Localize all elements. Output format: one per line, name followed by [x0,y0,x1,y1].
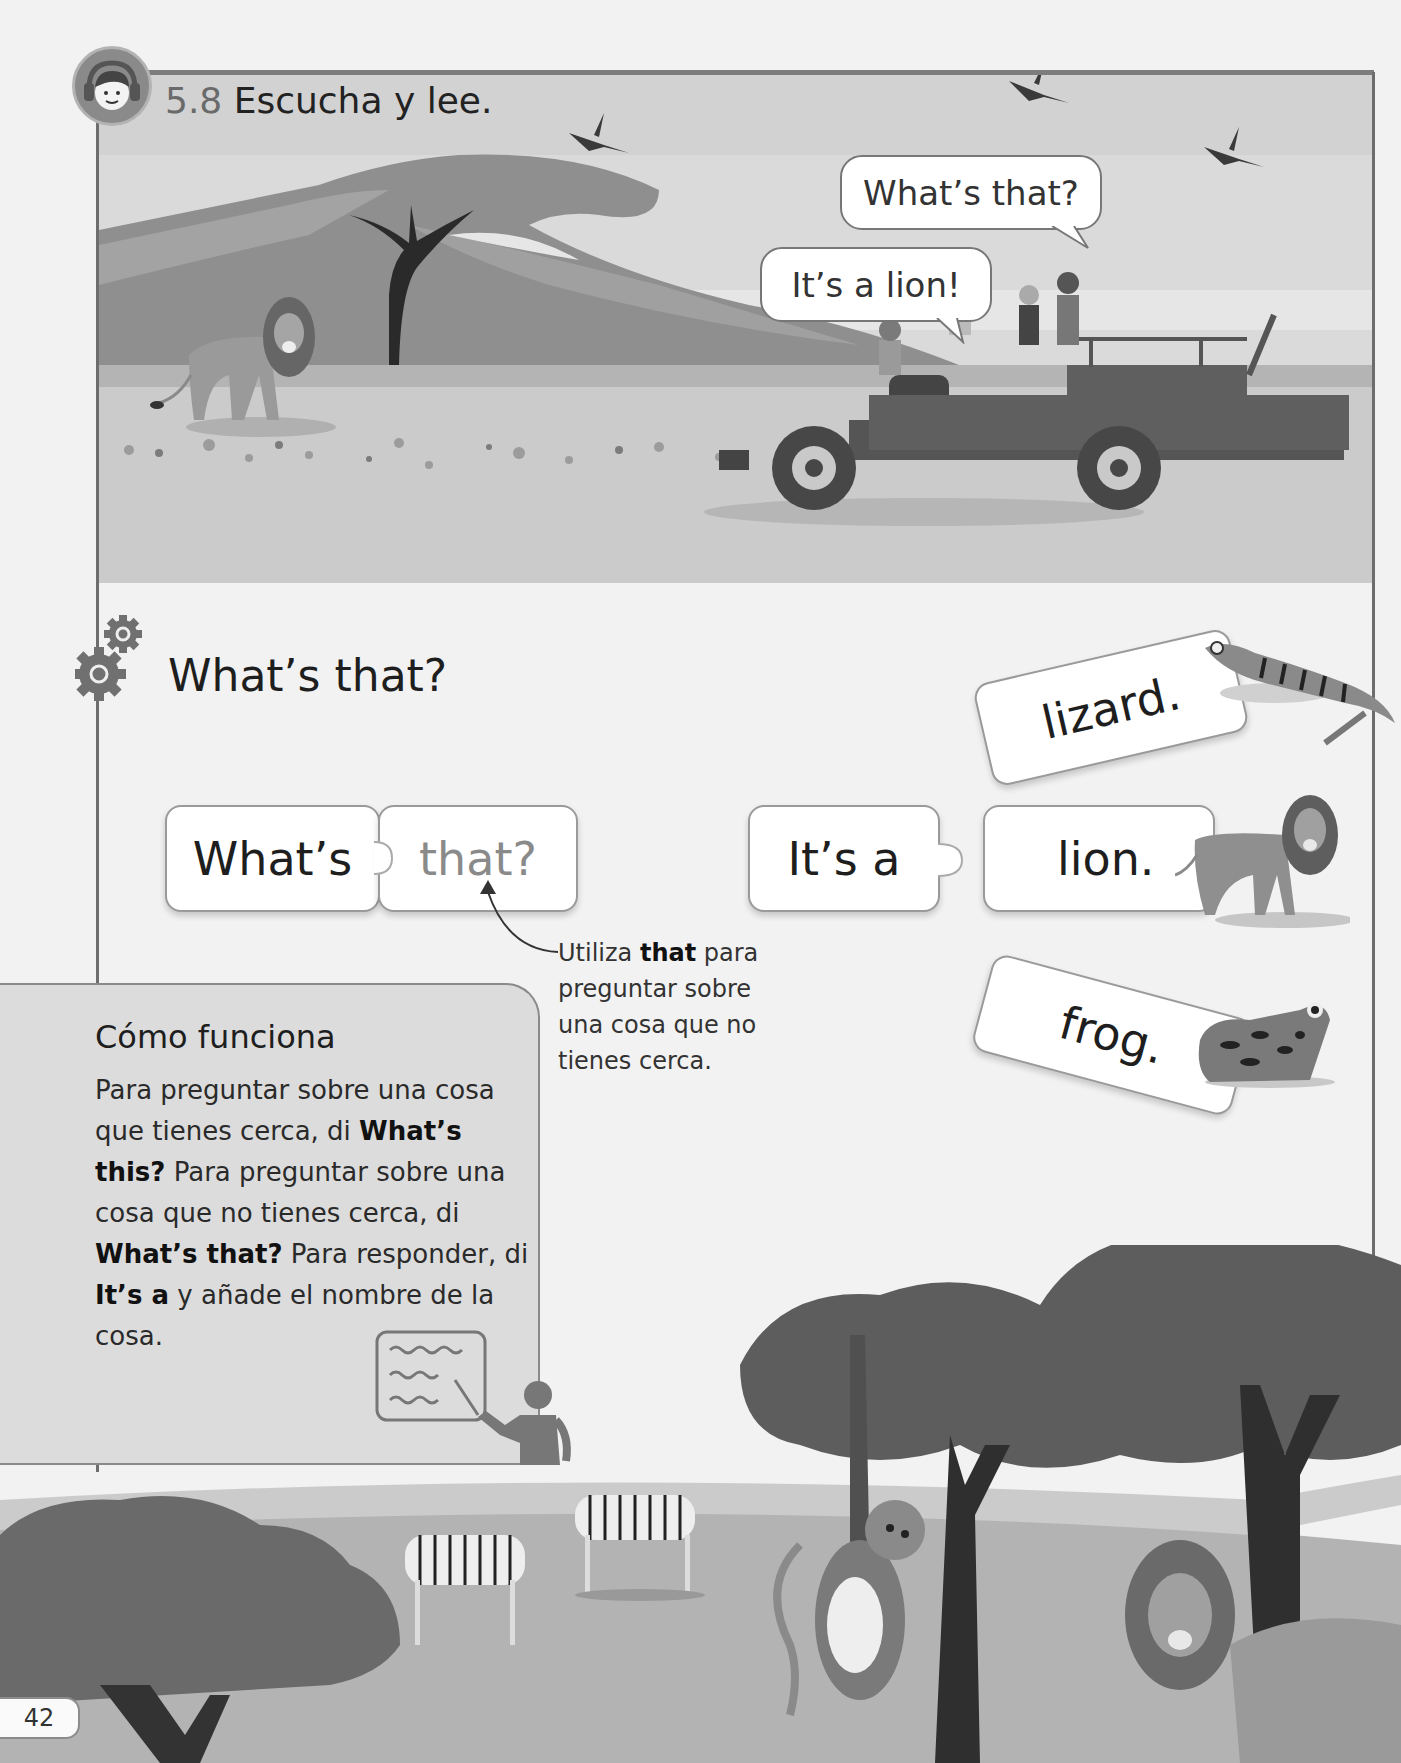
speech-bubble-text: What’s that? [863,173,1079,213]
puzzle-knob [370,838,394,878]
speech-bubble-text: It’s a lion! [791,265,960,305]
headphones-child-glyph [75,49,149,123]
frame-top-border [97,70,1374,75]
speech-bubble-its-a-lion: It’s a lion! [760,247,992,322]
exercise-title: 5.8 Escucha y lee. [165,80,492,121]
page-number: 42 [0,1697,80,1739]
frog-illustration [1190,990,1340,1090]
lion-illustration [1175,795,1350,930]
puzzle-knob [936,840,966,880]
puzzle-piece-its-a[interactable]: It’s a [748,805,940,912]
speech-bubble-whats-that: What’s that? [840,155,1102,230]
puzzle-piece-text: frog. [1054,995,1170,1075]
that-usage-note: Utiliza that para preguntar sobre una co… [558,935,788,1079]
gears-icon [75,612,145,707]
safari-scene-top [99,75,1372,583]
section-title: What’s that? [168,650,447,701]
exercise-number: 5.8 [165,80,222,121]
puzzle-piece-text: It’s a [787,832,900,886]
annotation-arrow-icon [478,880,563,960]
listening-child-headphones-icon[interactable] [72,46,152,126]
body-bold: It’s a [95,1280,169,1310]
body-bold: What’s that? [95,1239,283,1269]
teacher-whiteboard-icon [370,1325,580,1465]
puzzle-piece-text: that? [419,832,537,886]
lizard-illustration [1195,628,1401,753]
puzzle-piece-text: What’s [193,832,352,886]
puzzle-piece-text: lion. [1057,832,1154,886]
puzzle-piece-text: lizard. [1037,665,1185,749]
speech-bubble-tail [1050,226,1090,250]
how-it-works-title: Cómo funciona [95,1018,336,1056]
exercise-instruction: Escucha y lee. [234,80,493,121]
note-text: Utiliza [558,939,640,967]
note-bold-word: that [640,939,696,967]
speech-bubble-tail [935,318,967,344]
page-number-text: 42 [24,1704,55,1732]
puzzle-piece-whats[interactable]: What’s [165,805,380,912]
body-text: Para responder, di [283,1239,529,1269]
how-it-works-body: Para preguntar sobre una cosa que tienes… [95,1070,535,1357]
safari-illustration [99,75,1372,583]
